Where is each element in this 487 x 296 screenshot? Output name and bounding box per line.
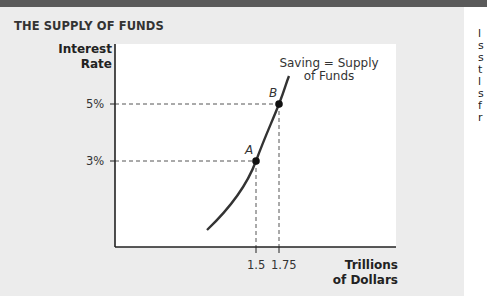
y-tick-5: 5% <box>86 97 104 111</box>
point-b-marker <box>275 100 283 108</box>
x-axis-label: Trillions of Dollars <box>330 258 398 288</box>
point-b-label: B <box>269 86 277 100</box>
y-axis-label: Interest Rate <box>40 42 112 72</box>
ticks <box>110 104 279 253</box>
point-a-marker <box>252 157 260 165</box>
guide-lines <box>115 104 279 247</box>
x-tick-1-75: 1.75 <box>271 258 297 272</box>
curve-label: Saving = Supply of Funds <box>274 57 384 83</box>
x-tick-1-5: 1.5 <box>247 258 265 272</box>
point-a-label: A <box>245 143 253 157</box>
cropped-text-column: l s s t l s f r <box>478 28 487 124</box>
y-tick-3: 3% <box>86 154 104 168</box>
